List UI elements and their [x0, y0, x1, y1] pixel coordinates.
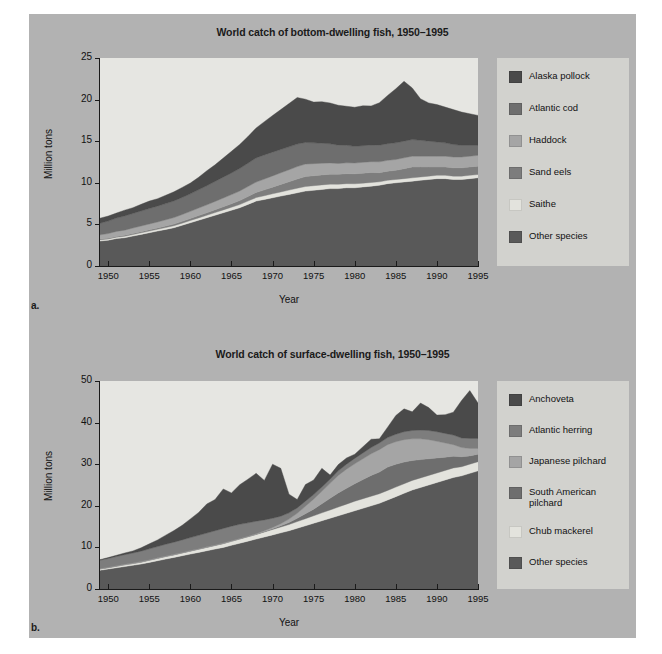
y-tick-label: 25: [58, 51, 92, 62]
x-tick-mark: [355, 261, 356, 266]
y-tick-label: 20: [58, 93, 92, 104]
x-tick-mark: [396, 584, 397, 589]
x-tick-mark: [231, 584, 232, 589]
y-tick-label: 20: [58, 499, 92, 510]
x-tick-mark: [149, 261, 150, 266]
x-tick-mark: [355, 584, 356, 589]
panel-b-area-svg: [100, 381, 478, 589]
x-tick-mark: [108, 584, 109, 589]
legend-item[interactable]: Atlantic cod: [509, 102, 627, 115]
y-tick-mark: [95, 464, 100, 465]
legend-item-label: Atlantic cod: [529, 102, 578, 113]
x-tick-label: 1995: [458, 270, 498, 281]
panel-a-y-axis-line: [99, 58, 100, 267]
y-tick-mark: [95, 423, 100, 424]
legend-item[interactable]: Saithe: [509, 198, 627, 211]
legend-item[interactable]: South American pilchard: [509, 486, 627, 508]
legend-swatch-icon: [509, 425, 522, 437]
legend-item[interactable]: Sand eels: [509, 166, 627, 179]
x-tick-label: 1985: [376, 593, 416, 604]
x-tick-label: 1955: [129, 270, 169, 281]
y-tick-mark: [95, 381, 100, 382]
y-tick-mark: [95, 547, 100, 548]
panel-b-x-axis-label: Year: [229, 617, 349, 628]
x-tick-mark: [437, 261, 438, 266]
legend-item-label: Saithe: [529, 198, 556, 209]
x-tick-mark: [437, 584, 438, 589]
x-tick-label: 1970: [253, 270, 293, 281]
y-tick-mark: [95, 506, 100, 507]
panel-b-plot-area: [100, 381, 478, 589]
x-tick-mark: [108, 261, 109, 266]
legend-item-label: Haddock: [529, 134, 567, 145]
panel-a-legend: Alaska pollockAtlantic codHaddockSand ee…: [497, 58, 629, 266]
x-tick-label: 1960: [170, 593, 210, 604]
legend-item-label: Anchoveta: [529, 393, 574, 404]
x-tick-label: 1980: [335, 593, 375, 604]
legend-swatch-icon: [509, 394, 522, 406]
x-tick-label: 1980: [335, 270, 375, 281]
legend-item[interactable]: Japanese pilchard: [509, 455, 627, 468]
legend-item-label: Atlantic herring: [529, 424, 592, 435]
legend-item[interactable]: Anchoveta: [509, 393, 627, 406]
legend-item[interactable]: Atlantic herring: [509, 424, 627, 437]
x-tick-mark: [149, 584, 150, 589]
legend-swatch-icon: [509, 71, 522, 83]
legend-item[interactable]: Alaska pollock: [509, 70, 627, 83]
y-tick-mark: [95, 589, 100, 590]
legend-swatch-icon: [509, 231, 522, 243]
x-tick-mark: [478, 584, 479, 589]
legend-swatch-icon: [509, 135, 522, 147]
legend-item[interactable]: Haddock: [509, 134, 627, 147]
x-tick-label: 1950: [88, 593, 128, 604]
y-tick-label: 30: [58, 457, 92, 468]
x-tick-label: 1990: [417, 593, 457, 604]
x-tick-mark: [478, 261, 479, 266]
x-tick-label: 1990: [417, 270, 457, 281]
panel-a: World catch of bottom-dwelling fish, 195…: [29, 14, 636, 326]
panel-b: World catch of surface-dwelling fish, 19…: [29, 326, 636, 638]
x-tick-label: 1970: [253, 593, 293, 604]
y-tick-mark: [95, 58, 100, 59]
x-tick-label: 1995: [458, 593, 498, 604]
panel-b-legend: AnchovetaAtlantic herringJapanese pilcha…: [497, 381, 629, 589]
legend-swatch-icon: [509, 456, 522, 468]
x-tick-label: 1965: [211, 270, 251, 281]
x-tick-label: 1975: [294, 270, 334, 281]
y-tick-mark: [95, 100, 100, 101]
x-tick-mark: [314, 584, 315, 589]
y-tick-mark: [95, 141, 100, 142]
panel-b-letter: b.: [31, 622, 40, 633]
x-tick-label: 1955: [129, 593, 169, 604]
x-tick-label: 1985: [376, 270, 416, 281]
x-tick-label: 1975: [294, 593, 334, 604]
y-tick-label: 0: [58, 259, 92, 270]
panel-a-plot-area: [100, 58, 478, 266]
legend-item-label: Other species: [529, 230, 588, 241]
y-tick-mark: [95, 224, 100, 225]
x-tick-mark: [273, 261, 274, 266]
y-tick-label: 40: [58, 416, 92, 427]
x-tick-mark: [273, 584, 274, 589]
legend-item[interactable]: Chub mackerel: [509, 525, 627, 538]
y-tick-mark: [95, 183, 100, 184]
y-tick-label: 10: [58, 176, 92, 187]
x-tick-mark: [231, 261, 232, 266]
legend-item-label: Alaska pollock: [529, 70, 590, 81]
legend-item[interactable]: Other species: [509, 556, 627, 569]
legend-item-label: Japanese pilchard: [529, 455, 606, 466]
legend-swatch-icon: [509, 167, 522, 179]
legend-item-label: Chub mackerel: [529, 525, 593, 536]
y-tick-label: 15: [58, 134, 92, 145]
y-tick-label: 10: [58, 540, 92, 551]
y-tick-label: 5: [58, 217, 92, 228]
legend-item[interactable]: Other species: [509, 230, 627, 243]
x-tick-label: 1960: [170, 270, 210, 281]
x-tick-label: 1965: [211, 593, 251, 604]
legend-swatch-icon: [509, 487, 522, 499]
legend-item-label: Other species: [529, 556, 588, 567]
x-tick-label: 1950: [88, 270, 128, 281]
panel-a-letter: a.: [31, 300, 39, 311]
figure-root: World catch of bottom-dwelling fish, 195…: [0, 0, 662, 654]
panel-a-x-axis-line: [99, 266, 479, 267]
